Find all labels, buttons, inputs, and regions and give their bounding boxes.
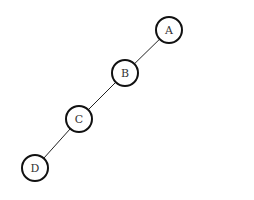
node-a: A [156,17,182,43]
node-label: C [75,113,83,126]
node-c: C [66,106,92,132]
node-d: D [22,155,48,181]
node-label: B [121,67,129,80]
node-label: D [31,162,40,175]
node-label: A [164,24,174,37]
node-b: B [112,60,138,86]
edges [35,30,169,168]
tree-diagram: ABCD [0,0,254,200]
